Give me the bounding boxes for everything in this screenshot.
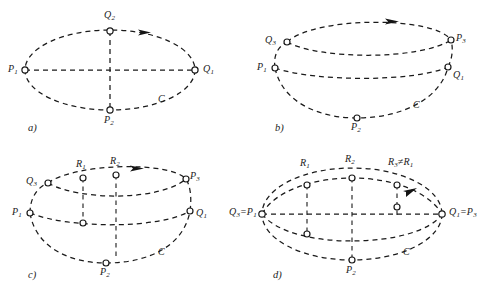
right-connector-arc bbox=[186, 179, 191, 211]
inner-lower-arc bbox=[262, 214, 442, 241]
label-p1: P1 bbox=[12, 207, 22, 219]
label-p3: P3 bbox=[190, 171, 200, 183]
label-q1-eq-p3: Q1=P3 bbox=[449, 207, 477, 219]
node-r3 bbox=[394, 182, 400, 188]
node-q3 bbox=[45, 180, 51, 186]
label-r1: R1 bbox=[300, 158, 310, 170]
label-curve-c: C bbox=[413, 99, 420, 110]
middle-arc bbox=[30, 211, 190, 225]
panel-tag-b: b) bbox=[275, 122, 284, 133]
label-q3: Q3 bbox=[265, 35, 276, 47]
label-q1: Q1 bbox=[453, 70, 464, 82]
label-p2: P2 bbox=[351, 122, 361, 134]
label-r1: R1 bbox=[76, 159, 86, 171]
node-p2 bbox=[349, 257, 355, 263]
panel-b: Q3 P3 P1 Q1 P2 C b) bbox=[245, 0, 490, 145]
node-q1 bbox=[192, 67, 198, 73]
panel-c-drawing bbox=[0, 145, 245, 290]
label-curve-c: C bbox=[158, 93, 165, 104]
node-r2 bbox=[113, 172, 119, 178]
label-q1: Q1 bbox=[203, 64, 214, 76]
label-curve-c: C bbox=[158, 246, 165, 257]
node-q1 bbox=[187, 208, 193, 214]
node-chord1-base bbox=[304, 231, 310, 237]
label-p1: P1 bbox=[257, 62, 267, 74]
panel-tag-d: d) bbox=[273, 269, 282, 280]
figure-root: Q2 P1 Q1 P2 C a) bbox=[0, 0, 490, 290]
label-q2: Q2 bbox=[104, 10, 115, 22]
label-curve-c: C bbox=[403, 246, 410, 257]
label-q1: Q1 bbox=[196, 208, 207, 220]
label-p1: P1 bbox=[8, 64, 18, 76]
bottom-arc-curve-c bbox=[30, 211, 190, 263]
lens-lower-arc bbox=[287, 40, 451, 55]
node-q3-eq-p1 bbox=[259, 211, 265, 217]
panel-tag-c: c) bbox=[28, 269, 36, 280]
label-p2: P2 bbox=[100, 267, 110, 279]
label-r2: R2 bbox=[110, 156, 120, 168]
node-r1 bbox=[80, 175, 86, 181]
node-q2 bbox=[107, 28, 113, 34]
label-r3-ne-r1: R3≠R1 bbox=[388, 157, 413, 169]
node-chord3-mid bbox=[394, 204, 400, 210]
panel-d: R1 R2 R3≠R1 Q3=P1 Q1=P3 P2 C d) bbox=[245, 145, 490, 290]
panel-a: Q2 P1 Q1 P2 C a) bbox=[0, 0, 245, 145]
left-connector-arc bbox=[275, 42, 287, 68]
lens-upper-arc bbox=[287, 22, 451, 42]
node-q3 bbox=[284, 39, 290, 45]
direction-arrow-icon bbox=[385, 19, 399, 25]
node-r1 bbox=[304, 182, 310, 188]
node-q1-eq-p3 bbox=[439, 211, 445, 217]
node-chord1-base bbox=[80, 220, 86, 226]
node-q1 bbox=[445, 64, 451, 70]
right-connector-arc bbox=[448, 40, 452, 67]
label-q3-eq-p1: Q3=P1 bbox=[229, 207, 257, 219]
node-p2 bbox=[107, 107, 113, 113]
label-r2: R2 bbox=[345, 154, 355, 166]
panel-c: R1 R2 Q3 P3 P1 Q1 P2 C c) bbox=[0, 145, 245, 290]
direction-arrow-icon bbox=[403, 188, 417, 197]
label-p2: P2 bbox=[346, 265, 356, 277]
node-p1 bbox=[22, 67, 28, 73]
label-p2: P2 bbox=[104, 115, 114, 127]
node-p1 bbox=[272, 65, 278, 71]
node-p3 bbox=[448, 37, 454, 43]
node-r2 bbox=[349, 175, 355, 181]
node-p1 bbox=[27, 210, 33, 216]
label-p3: P3 bbox=[456, 33, 466, 45]
node-p3 bbox=[183, 176, 189, 182]
middle-arc bbox=[275, 67, 448, 78]
label-q3: Q3 bbox=[26, 176, 37, 188]
lens-lower-arc bbox=[48, 179, 186, 196]
panel-tag-a: a) bbox=[28, 122, 37, 133]
